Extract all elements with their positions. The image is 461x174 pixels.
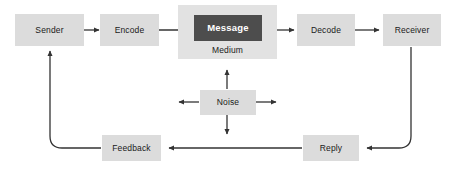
node-encode-label: Encode <box>115 26 145 35</box>
node-feedback-label: Feedback <box>112 144 151 153</box>
node-message-label: Message <box>207 23 249 33</box>
connector-feedback-to-sender <box>50 51 101 148</box>
node-feedback[interactable]: Feedback <box>102 135 161 161</box>
node-sender[interactable]: Sender <box>15 14 84 46</box>
node-receiver[interactable]: Receiver <box>383 14 441 46</box>
node-decode[interactable]: Decode <box>297 14 355 46</box>
node-sender-label: Sender <box>35 26 63 35</box>
node-reply[interactable]: Reply <box>303 135 359 161</box>
node-decode-label: Decode <box>311 26 341 35</box>
node-reply-label: Reply <box>320 144 342 153</box>
node-noise[interactable]: Noise <box>200 90 256 115</box>
node-medium-label: Medium <box>178 46 277 55</box>
node-receiver-label: Receiver <box>395 26 430 35</box>
node-encode[interactable]: Encode <box>100 14 159 46</box>
connector-receiver-to-reply <box>367 47 411 148</box>
node-medium[interactable]: Message Medium <box>178 5 277 59</box>
communication-model-diagram: Sender Encode Message Medium Decode Rece… <box>0 0 461 174</box>
node-noise-label: Noise <box>217 98 239 107</box>
node-message[interactable]: Message <box>194 15 262 41</box>
